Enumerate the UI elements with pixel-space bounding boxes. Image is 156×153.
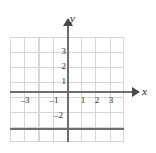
grid-right-edge [123, 37, 124, 142]
y-axis-label: y [70, 13, 75, 24]
x-axis-label: x [142, 86, 147, 97]
x-axis-arrow-icon [132, 87, 140, 97]
y-tick-label-2: 2 [54, 62, 66, 71]
x-tick-label-neg3: –3 [18, 96, 32, 105]
x-axis [10, 91, 134, 93]
x-tick-label-2: 2 [90, 96, 104, 105]
coordinate-plane-figure: y x –3 –1 1 2 3 3 2 1 –2 [0, 0, 156, 153]
x-tick-label-3: 3 [104, 96, 118, 105]
y-tick-label-neg2: –2 [51, 111, 63, 120]
x-tick-label-neg1: –1 [47, 96, 61, 105]
y-tick-label-3: 3 [54, 47, 66, 56]
y-tick-label-1: 1 [54, 77, 66, 86]
x-tick-label-1: 1 [76, 96, 90, 105]
y-axis [67, 25, 69, 142]
